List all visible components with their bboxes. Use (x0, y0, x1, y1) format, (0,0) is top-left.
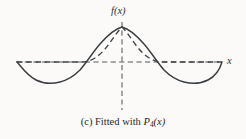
caption-text: Fitted with (95, 116, 141, 127)
x-axis-label: x (227, 56, 232, 67)
y-axis-label: f(x) (111, 6, 126, 17)
figure-caption: (c) Fitted with P4(x) (0, 116, 246, 128)
solid-function-curve (17, 27, 222, 83)
caption-polynomial-degree: 4 (150, 120, 154, 129)
caption-polynomial-argument: (x) (154, 116, 166, 127)
figure-container: f(x) x (c) Fitted with P4(x) (0, 0, 246, 139)
caption-polynomial-symbol: P (143, 116, 149, 127)
caption-part-marker: (c) (81, 116, 93, 127)
dashed-polynomial-curve (17, 27, 222, 62)
